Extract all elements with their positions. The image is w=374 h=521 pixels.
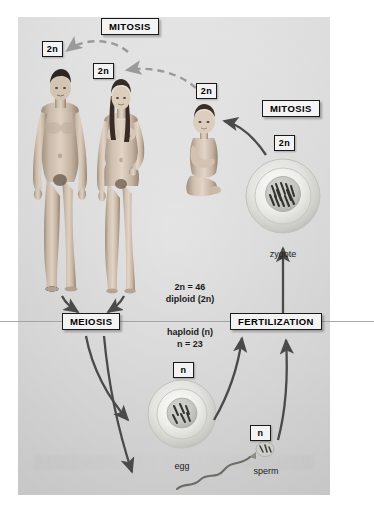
arrow-egg-to-fertilization: [214, 338, 242, 420]
diagram-canvas: MITOSIS MITOSIS MEIOSIS FERTILIZATION 2n…: [0, 0, 374, 521]
text-diploid-count: 2n = 46: [148, 281, 232, 293]
caption-zygote: zygote: [253, 249, 313, 259]
arrow-meiosis-to-egg: [86, 336, 128, 420]
label-fertilization: FERTILIZATION: [230, 313, 322, 330]
text-haploid-count: n = 23: [148, 338, 232, 350]
tag-n-sperm: n: [250, 425, 271, 441]
tag-2n-child: 2n: [196, 83, 217, 99]
adult-female-figure: [97, 79, 144, 293]
caption-sperm: sperm: [240, 466, 292, 476]
tag-2n-adult-female: 2n: [93, 63, 114, 79]
arrow-child-to-female: [128, 69, 196, 88]
adult-male-figure: [33, 69, 87, 292]
arrow-meiosis-to-sperm: [104, 336, 132, 472]
label-mitosis-top: MITOSIS: [101, 18, 159, 35]
label-mitosis-right: MITOSIS: [262, 100, 320, 117]
zygote-cell: [246, 159, 320, 233]
arrow-sperm-to-fertilization: [278, 340, 287, 440]
arrow-female-to-male: [68, 41, 128, 52]
arrow-zygote-to-child: [224, 121, 266, 155]
tag-n-egg: n: [173, 362, 194, 378]
text-haploid-name: haploid (n): [148, 326, 232, 338]
child-figure: [186, 104, 221, 196]
label-meiosis: MEIOSIS: [62, 313, 120, 330]
caption-egg: egg: [156, 461, 208, 471]
tag-2n-zygote: 2n: [274, 135, 295, 151]
diagram-artwork: [0, 0, 374, 521]
text-diploid-name: diploid (2n): [148, 293, 232, 305]
arrow-male-to-meiosis: [62, 296, 78, 312]
arrow-female-to-meiosis: [108, 296, 124, 312]
egg-cell: [148, 380, 216, 448]
tag-2n-adult-male: 2n: [42, 41, 63, 57]
